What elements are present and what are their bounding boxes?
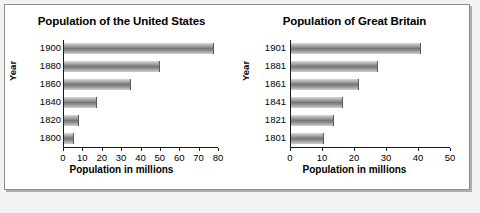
chart-united-states: Population of the United States Year 190… [5, 5, 238, 191]
x-tick-label: 50 [155, 152, 166, 163]
bar [291, 43, 421, 54]
y-tick-label: 1861 [265, 79, 286, 89]
bar [64, 133, 74, 144]
x-tick-mark [218, 148, 219, 151]
x-tick-label: 10 [77, 152, 88, 163]
bar-row [291, 76, 450, 94]
bar [291, 115, 334, 126]
figure-container: Population of the United States Year 190… [0, 0, 480, 213]
x-tick-mark [141, 148, 142, 151]
y-tick-labels-united-states: 1900 1880 1860 1840 1820 1800 [19, 40, 61, 148]
bar-row [291, 93, 450, 111]
bar-row [291, 58, 450, 76]
y-axis-label-united-states: Year [7, 61, 18, 81]
bar-row [64, 111, 218, 129]
y-tick-labels-great-britain: 1901 1881 1861 1841 1821 1801 [244, 40, 286, 148]
x-axis-label-great-britain: Population in millions [238, 164, 471, 175]
chart-title-great-britain: Population of Great Britain [238, 15, 471, 27]
x-tick-mark [386, 148, 387, 151]
x-tick-mark [450, 148, 451, 151]
x-tick-mark [121, 148, 122, 151]
plot-area-united-states [63, 40, 218, 148]
y-tick-label: 1820 [40, 115, 61, 125]
x-tick-label: 80 [213, 152, 224, 163]
y-tick-label: 1860 [40, 79, 61, 89]
bar [291, 79, 359, 90]
x-tick-label: 20 [349, 152, 360, 163]
x-tick-label: 30 [116, 152, 127, 163]
bar-row [64, 76, 218, 94]
x-tick-label: 40 [413, 152, 424, 163]
x-tick-label: 10 [317, 152, 328, 163]
bar-row [64, 58, 218, 76]
x-tick-label: 70 [193, 152, 204, 163]
bar [64, 97, 97, 108]
x-tick-mark [290, 148, 291, 151]
y-tick-label: 1881 [265, 61, 286, 71]
x-tick-label: 30 [381, 152, 392, 163]
x-tick-mark [322, 148, 323, 151]
x-axis-label-united-states: Population in millions [5, 164, 238, 175]
chart-great-britain: Population of Great Britain Year 1901 18… [238, 5, 471, 191]
bar [291, 133, 324, 144]
bar-row [64, 129, 218, 147]
x-tick-label: 0 [60, 152, 65, 163]
x-tick-label: 20 [96, 152, 107, 163]
plot-area-great-britain [290, 40, 450, 148]
bar [64, 61, 160, 72]
x-tick-label: 60 [174, 152, 185, 163]
x-tick-label: 0 [287, 152, 292, 163]
x-tick-label: 40 [135, 152, 146, 163]
y-tick-label: 1880 [40, 61, 61, 71]
bar-row [64, 93, 218, 111]
bar [291, 97, 343, 108]
x-tick-mark [418, 148, 419, 151]
y-tick-label: 1901 [265, 43, 286, 53]
y-tick-label: 1841 [265, 97, 286, 107]
x-tick-mark [179, 148, 180, 151]
bar-row [291, 129, 450, 147]
bar [291, 61, 378, 72]
bar [64, 43, 214, 54]
bar-row [64, 40, 218, 58]
y-tick-label: 1801 [265, 133, 286, 143]
x-tick-mark [199, 148, 200, 151]
charts-panel: Population of the United States Year 190… [4, 4, 470, 190]
y-tick-label: 1821 [265, 115, 286, 125]
bar-row [291, 111, 450, 129]
chart-title-united-states: Population of the United States [5, 15, 238, 27]
x-tick-mark [160, 148, 161, 151]
bar [64, 79, 131, 90]
y-tick-label: 1800 [40, 133, 61, 143]
bar [64, 115, 79, 126]
x-tick-label: 50 [445, 152, 456, 163]
x-tick-mark [63, 148, 64, 151]
y-tick-label: 1840 [40, 97, 61, 107]
bar-series-great-britain [291, 40, 450, 147]
bar-row [291, 40, 450, 58]
x-tick-mark [102, 148, 103, 151]
y-tick-label: 1900 [40, 43, 61, 53]
x-tick-mark [82, 148, 83, 151]
x-tick-mark [354, 148, 355, 151]
bar-series-united-states [64, 40, 218, 147]
